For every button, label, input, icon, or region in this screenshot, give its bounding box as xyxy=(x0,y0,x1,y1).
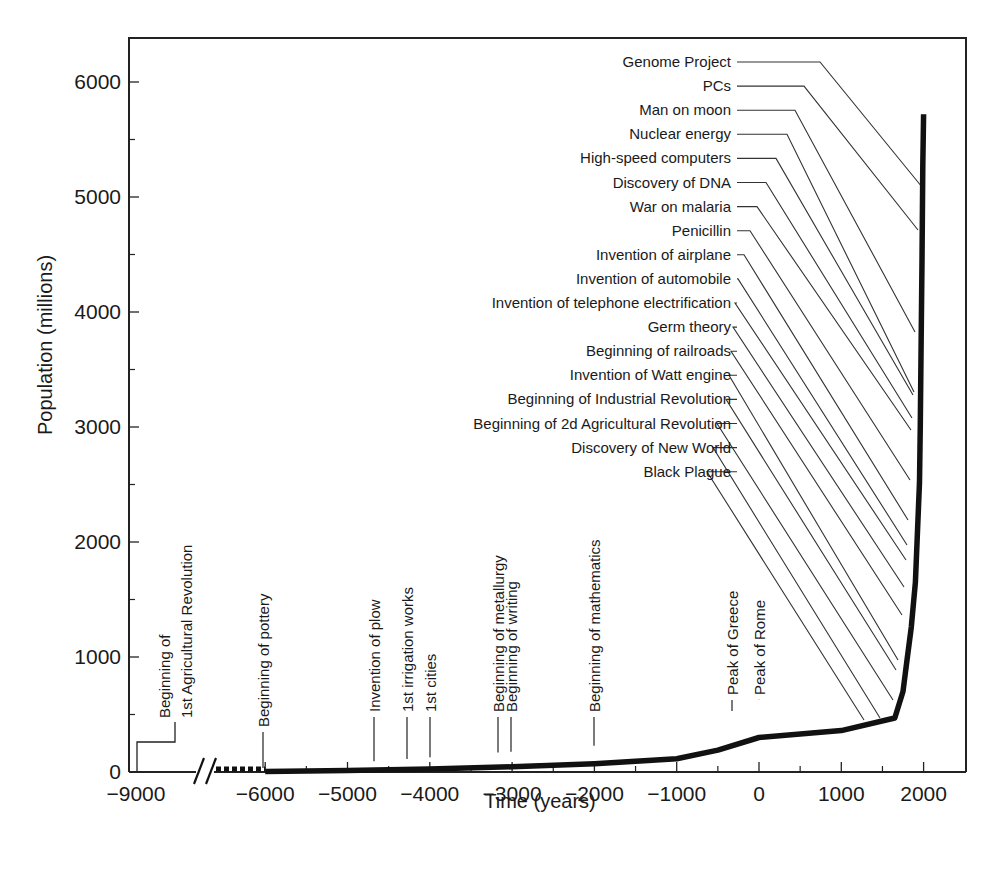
event-label-right: Discovery of New World xyxy=(571,439,731,456)
y-tick-label: 1000 xyxy=(74,645,121,668)
annotation-labels: Beginning of1st Agricultural RevolutionB… xyxy=(156,53,768,727)
y-tick-label: 3000 xyxy=(74,415,121,438)
event-label-right: Discovery of DNA xyxy=(613,174,731,191)
x-tick-label: −9000 xyxy=(107,782,166,805)
event-label-bottom: Beginning of pottery xyxy=(255,593,272,727)
right-leader xyxy=(737,183,912,419)
event-label-bottom: Beginning of writing xyxy=(503,581,520,712)
population-curve xyxy=(216,114,924,771)
event-label-right: Beginning of Industrial Revolution xyxy=(508,390,731,407)
y-tick-label: 4000 xyxy=(74,300,121,323)
early-marker-leader xyxy=(137,722,175,772)
population-chart: −9000−6000−5000−4000−3000−2000−100001000… xyxy=(0,0,1002,871)
event-label-bottom: Invention of plow xyxy=(366,599,383,712)
event-label-right: Genome Project xyxy=(623,53,732,70)
right-leader xyxy=(737,279,907,545)
event-label-right: Beginning of 2d Agricultural Revolution xyxy=(473,415,731,432)
x-tick-label: 2000 xyxy=(900,782,947,805)
event-label-right: Beginning of railroads xyxy=(586,342,731,359)
event-label-right: Invention of automobile xyxy=(576,270,731,287)
event-label-bottom: 1st cities xyxy=(422,654,439,712)
event-label-right: Germ theory xyxy=(648,318,732,335)
event-label-right: Nuclear energy xyxy=(629,125,731,142)
x-tick-label: −1000 xyxy=(647,782,706,805)
right-leader xyxy=(737,255,908,520)
event-label-bottom: Peak of Rome xyxy=(751,600,768,695)
event-label-right: Invention of airplane xyxy=(596,246,731,263)
axis-break-marker xyxy=(194,758,216,784)
x-axis-title: Time (years) xyxy=(484,790,595,812)
event-label-right: Man on moon xyxy=(639,101,731,118)
event-label-early: Beginning of xyxy=(156,634,173,718)
right-leader xyxy=(731,351,902,615)
right-leader xyxy=(737,134,914,392)
event-label-right: War on malaria xyxy=(630,198,732,215)
event-label-right: PCs xyxy=(703,77,731,94)
event-label-bottom: Peak of Greece xyxy=(724,591,741,695)
right-leader xyxy=(737,110,915,332)
event-label-right: Invention of telephone electrification xyxy=(492,294,731,311)
event-label-early: 1st Agricultural Revolution xyxy=(178,545,195,718)
event-label-bottom: Beginning of mathematics xyxy=(586,539,603,712)
y-tick-label: 2000 xyxy=(74,530,121,553)
x-tick-label: −5000 xyxy=(318,782,377,805)
event-label-bottom: 1st irrigation works xyxy=(399,587,416,712)
event-label-right: High-speed computers xyxy=(580,149,731,166)
x-tick-label: −6000 xyxy=(236,782,295,805)
right-leader xyxy=(737,62,922,187)
event-label-right: Penicillin xyxy=(672,222,731,239)
right-leader xyxy=(737,231,910,480)
y-tick-label: 5000 xyxy=(74,185,121,208)
right-leader xyxy=(733,327,904,587)
event-label-right: Black Plague xyxy=(643,463,731,480)
x-tick-label: 1000 xyxy=(818,782,865,805)
event-label-right: Invention of Watt engine xyxy=(570,366,731,383)
x-tick-label: 0 xyxy=(753,782,765,805)
y-axis-title: Population (millions) xyxy=(34,255,56,435)
y-tick-label: 0 xyxy=(109,760,121,783)
x-tick-label: −4000 xyxy=(400,782,459,805)
y-tick-label: 6000 xyxy=(74,70,121,93)
